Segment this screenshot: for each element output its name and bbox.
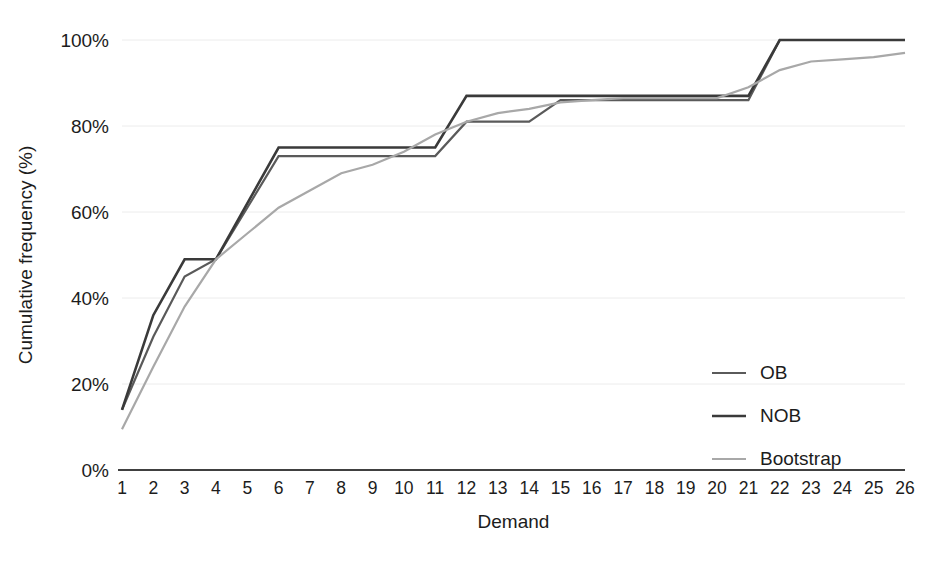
y-axis-tick-label: 0%	[82, 460, 110, 481]
x-axis-tick-label: 16	[582, 478, 601, 498]
x-axis-tick-label: 12	[457, 478, 476, 498]
x-axis-tick-label: 24	[833, 478, 853, 498]
x-axis-tick-label: 2	[148, 478, 158, 498]
x-axis-tick-label: 17	[613, 478, 632, 498]
legend-label-ob: OB	[760, 362, 787, 383]
y-axis-title: Cumulative frequency (%)	[15, 146, 36, 365]
y-axis-tick-label: 20%	[71, 374, 109, 395]
x-axis-tick-label: 10	[394, 478, 414, 498]
chart-canvas: 0%20%40%60%80%100%1234567891011121314151…	[0, 0, 930, 565]
y-axis-tick-label: 80%	[71, 116, 109, 137]
x-axis-tick-label: 26	[895, 478, 914, 498]
x-axis-tick-label: 5	[242, 478, 252, 498]
x-axis-tick-label: 4	[211, 478, 221, 498]
x-axis-tick-label: 1	[117, 478, 127, 498]
y-axis-tick-label: 60%	[71, 202, 109, 223]
y-axis-tick-label: 100%	[60, 30, 109, 51]
x-axis-tick-label: 11	[426, 478, 444, 498]
series-line-bootstrap	[122, 53, 905, 429]
x-axis-tick-label: 18	[645, 478, 664, 498]
legend-label-bootstrap: Bootstrap	[760, 448, 841, 469]
y-axis-tick-label: 40%	[71, 288, 109, 309]
x-axis-tick-label: 8	[336, 478, 346, 498]
x-axis-tick-label: 25	[864, 478, 883, 498]
x-axis-tick-label: 21	[739, 478, 758, 498]
x-axis-tick-label: 15	[551, 478, 570, 498]
x-axis-title: Demand	[478, 511, 550, 532]
x-axis-tick-label: 20	[707, 478, 727, 498]
x-axis-tick-label: 14	[519, 478, 539, 498]
series-line-nob	[122, 40, 905, 410]
cumulative-frequency-chart: 0%20%40%60%80%100%1234567891011121314151…	[0, 0, 930, 565]
x-axis-tick-label: 9	[368, 478, 378, 498]
x-axis-tick-label: 22	[770, 478, 789, 498]
x-axis-tick-label: 3	[180, 478, 190, 498]
x-axis-tick-label: 7	[305, 478, 315, 498]
legend-label-nob: NOB	[760, 405, 801, 426]
x-axis-tick-label: 13	[488, 478, 507, 498]
x-axis-tick-label: 23	[801, 478, 820, 498]
x-axis-tick-label: 6	[274, 478, 284, 498]
x-axis-tick-label: 19	[676, 478, 695, 498]
